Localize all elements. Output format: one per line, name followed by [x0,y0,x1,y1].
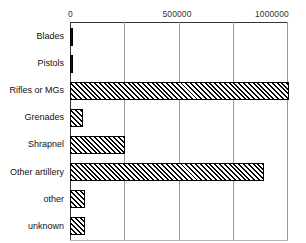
bar [70,82,289,100]
bar [70,217,85,235]
category-label: Grenades [0,112,64,123]
gridline [124,22,125,241]
gridline [233,22,234,241]
category-label: unknown [0,221,64,232]
bar [70,28,73,46]
category-label: other [0,194,64,205]
bar [70,163,264,181]
bar-chart: 05000001000000 BladesPistolsRifles or MG… [0,0,306,243]
x-tick-label: 500000 [163,9,192,19]
bar [70,55,73,73]
plot-bottom-line [70,240,288,241]
category-label: Pistols [0,58,64,69]
gridline [179,22,180,241]
category-label: Shrapnel [0,139,64,150]
x-tick-label: 1000000 [255,9,289,19]
bar [70,109,83,127]
bar [70,136,125,154]
category-label: Blades [0,31,64,42]
category-label: Other artillery [0,167,64,178]
gridline [287,22,288,241]
x-tick-label: 0 [68,9,73,19]
bar [70,190,85,208]
category-label: Rifles or MGs [0,85,64,96]
